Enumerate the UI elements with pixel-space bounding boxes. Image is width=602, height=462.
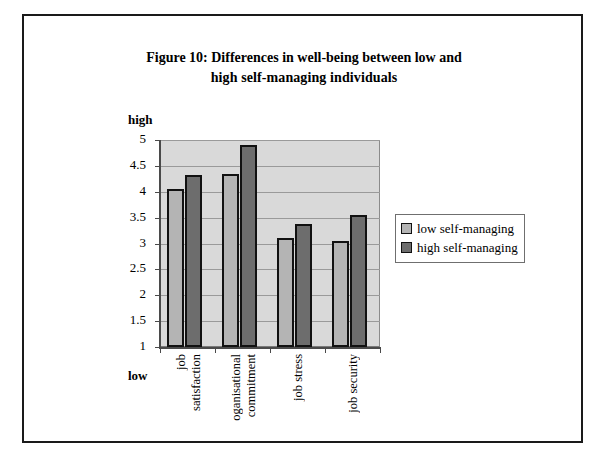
y-axis-tick-label: 2.5 xyxy=(130,260,146,276)
category-label: job stress xyxy=(291,354,306,446)
y-axis-tick-label: 3 xyxy=(140,235,147,251)
category-label-word: oganisational xyxy=(229,354,244,421)
x-axis-tick xyxy=(325,347,326,353)
legend-item-high: high self-managing xyxy=(401,238,518,257)
chart-title-line-2: high self-managing individuals xyxy=(84,68,524,88)
legend-swatch-high-icon xyxy=(401,242,412,253)
bar-high-self-managing xyxy=(350,215,367,347)
bar-group xyxy=(215,140,270,347)
category-label-word: job xyxy=(174,354,189,370)
bar-group xyxy=(160,140,215,347)
bar-low-self-managing xyxy=(222,174,239,347)
y-axis-tick-label: 4 xyxy=(140,183,147,199)
y-axis-tick-label: 4.5 xyxy=(130,157,146,173)
bar-high-self-managing xyxy=(295,224,312,347)
legend-label-low: low self-managing xyxy=(417,221,514,237)
y-axis-tick-label: 2 xyxy=(140,286,147,302)
x-axis-tick xyxy=(380,347,381,353)
y-axis-tick-label: 1.5 xyxy=(130,312,146,328)
category-label-word: job stress xyxy=(291,354,306,401)
chart-title: Figure 10: Differences in well-being bet… xyxy=(84,48,524,88)
y-axis-tick-label: 5 xyxy=(140,131,147,147)
chart-legend: low self-managing high self-managing xyxy=(395,214,525,263)
x-axis-tick xyxy=(270,347,271,353)
x-axis-tick xyxy=(160,347,161,353)
bar-low-self-managing xyxy=(332,241,349,347)
plot-wrapper: 54.543.532.521.51 xyxy=(160,140,380,347)
bar-group xyxy=(325,140,380,347)
category-label: oganisationalcommitment xyxy=(229,354,259,446)
bar-high-self-managing xyxy=(185,175,202,347)
axis-low-label: low xyxy=(128,368,148,384)
category-label-word: commitment xyxy=(244,354,259,417)
x-axis-tick xyxy=(215,347,216,353)
figure-page-frame: Figure 10: Differences in well-being bet… xyxy=(22,14,583,443)
bar-high-self-managing xyxy=(240,145,257,347)
y-axis-tick-label: 3.5 xyxy=(130,209,146,225)
legend-item-low: low self-managing xyxy=(401,219,518,238)
legend-label-high: high self-managing xyxy=(417,240,518,256)
bar-group xyxy=(270,140,325,347)
category-label-word: satisfaction xyxy=(189,354,204,411)
legend-swatch-low-icon xyxy=(401,223,412,234)
category-label: job security xyxy=(346,354,361,446)
bar-low-self-managing xyxy=(277,238,294,347)
bar-low-self-managing xyxy=(167,189,184,347)
chart-title-line-1: Figure 10: Differences in well-being bet… xyxy=(84,48,524,68)
category-label: jobsatisfaction xyxy=(174,354,204,446)
y-axis-tick-label: 1 xyxy=(140,338,147,354)
category-label-word: job security xyxy=(346,354,361,413)
axis-high-label: high xyxy=(128,112,153,128)
